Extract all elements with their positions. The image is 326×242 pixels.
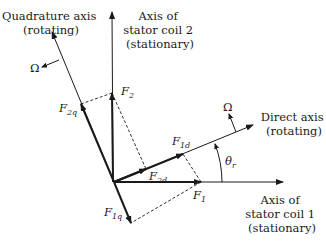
direct-axis-label: Direct axis (rotating) xyxy=(261,110,326,138)
projection-lines xyxy=(81,93,201,223)
stator-coil-1-axis-label: Axis of stator coil 1 (stationary) xyxy=(245,193,318,235)
label-f2d: F2d xyxy=(148,169,167,185)
label-f2q: F2q xyxy=(58,101,77,117)
theta-arc xyxy=(215,144,222,182)
label-f1: F1 xyxy=(192,188,206,204)
omega-label-quadrature: Ω xyxy=(30,61,40,75)
vector-f2q xyxy=(81,104,114,182)
label-f1q: F1q xyxy=(103,205,122,221)
omega-arrow-direct xyxy=(229,114,236,132)
phasor-diagram: Quadrature axis (rotating) Axis of stato… xyxy=(0,0,326,242)
vector-f2 xyxy=(112,93,113,182)
label-theta-r: θr xyxy=(225,154,237,170)
omega-label-direct: Ω xyxy=(223,100,233,114)
omega-arrow-quadrature xyxy=(42,60,59,67)
label-f1d: F1d xyxy=(171,134,190,150)
stator-coil-2-axis-label: Axis of stator coil 2 (stationary) xyxy=(123,9,196,51)
vector-f2d xyxy=(114,169,146,182)
quadrature-axis-label: Quadrature axis (rotating) xyxy=(2,9,100,37)
label-f2: F2 xyxy=(120,84,134,100)
